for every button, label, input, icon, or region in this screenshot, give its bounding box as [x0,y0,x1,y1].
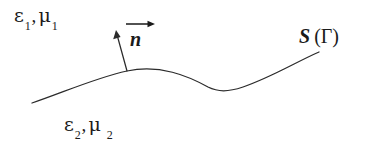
normal-arrow-head [113,30,120,39]
mu-symbol-lower: μ [89,113,102,135]
normal-vector-label: n [128,20,141,49]
epsilon-symbol-upper: ε [14,4,24,26]
normal-arrow-shaft [118,37,128,72]
normal-vector-glyph: n [128,29,141,49]
separator-upper: , [30,5,38,26]
surface-label: S(Γ) [299,26,339,46]
interface-curve [32,52,319,103]
normal-arrow [113,30,127,71]
epsilon-symbol-lower: ε [64,113,74,135]
mu-symbol-upper: μ [39,4,52,26]
vector-overbar-arrow-icon [126,20,155,29]
mu-subscript-lower: 2 [107,128,113,142]
epsilon-subscript-lower: 2 [75,128,81,142]
physics-interface-diagram: ε1,μ1 ε2,μ2 n S(Γ) [0,0,381,145]
epsilon-subscript-upper: 1 [25,19,31,33]
vector-stack: n [128,20,141,49]
separator-lower: , [80,114,88,135]
mu-subscript-upper: 1 [52,19,58,33]
medium-upper-parameters-label: ε1,μ1 [14,6,58,29]
medium-lower-parameters-label: ε2,μ2 [64,115,113,138]
surface-gamma-group: (Γ) [310,25,339,47]
surface-s-glyph: S [299,25,310,47]
